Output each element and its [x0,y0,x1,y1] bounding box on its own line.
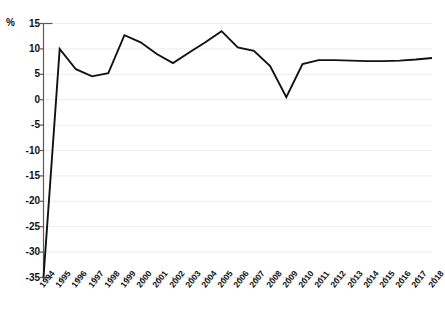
x-tick-label: 1994 [38,269,57,289]
x-tick-label: 2009 [281,269,300,289]
x-tick-label: 2001 [151,269,170,289]
x-tick-label: 2018 [427,269,445,289]
x-tick-label: 1995 [54,269,73,289]
x-tick-label: 2014 [362,269,381,289]
x-tick-label: 1997 [87,269,106,289]
x-tick-label: 2006 [232,269,251,289]
x-tick-label: 2007 [248,269,267,289]
x-tick-label: 2015 [378,269,397,289]
x-tick-label: 1996 [70,269,89,289]
x-tick-label: 2000 [135,269,154,289]
x-tick-label: 2005 [216,269,235,289]
x-tick-label: 2002 [168,269,187,289]
x-tick-label: 1998 [103,269,122,289]
x-tick-label: 2008 [265,269,284,289]
x-tick-label: 2016 [394,269,413,289]
x-tick-label: 2013 [346,269,365,289]
x-tick-label: 2011 [313,269,331,289]
x-tick-label: 2012 [329,269,348,289]
x-tick-label: 2010 [297,269,316,289]
x-tick-label: 2017 [410,269,429,289]
x-tick-label: 2004 [200,269,219,289]
x-tick-label: 1999 [119,269,138,289]
x-tick-label: 2003 [184,269,203,289]
